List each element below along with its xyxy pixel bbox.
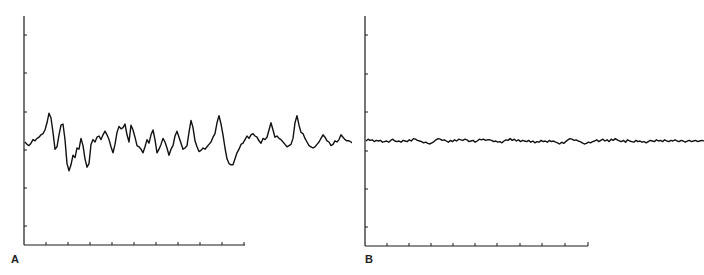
trace-line-b: [366, 139, 704, 144]
x-axis: [365, 242, 588, 246]
y-axis: [365, 16, 368, 246]
trace-chart-a: [0, 0, 352, 275]
x-axis: [24, 242, 245, 245]
panel-a: A: [0, 0, 352, 275]
panel-b: B: [352, 0, 704, 275]
trace-line-a: [25, 113, 352, 171]
panel-label-a: A: [11, 253, 19, 265]
panel-label-b: B: [365, 253, 373, 265]
y-axis: [24, 16, 27, 245]
trace-chart-b: [352, 0, 704, 275]
